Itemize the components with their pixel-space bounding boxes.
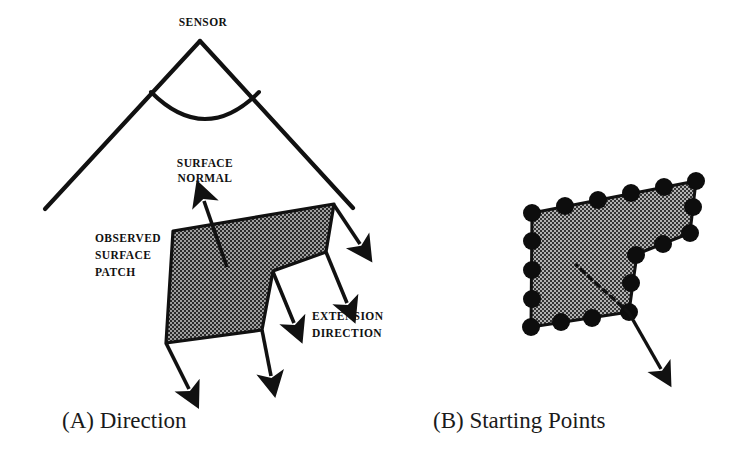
- extension-direction-label: EXTENSION: [312, 310, 384, 322]
- boundary-point: [622, 184, 640, 202]
- observed-surface-patch-label-line2: SURFACE: [95, 249, 151, 261]
- boundary-point: [552, 313, 570, 331]
- surface-normal-label-line2: NORMAL: [178, 172, 233, 184]
- panel-a-caption: (A) Direction: [62, 408, 187, 433]
- boundary-point: [523, 290, 541, 308]
- figure-root: SENSOR SURFACE NORMAL OBSERVED SURFACE P…: [0, 0, 732, 454]
- boundary-point: [681, 224, 699, 242]
- boundary-point: [687, 172, 705, 190]
- extension-direction-label-line2: DIRECTION: [312, 327, 382, 339]
- boundary-point: [556, 197, 574, 215]
- boundary-point: [684, 198, 702, 216]
- boundary-point: [654, 235, 672, 253]
- boundary-point: [523, 204, 541, 222]
- technical-diagram-svg: SENSOR SURFACE NORMAL OBSERVED SURFACE P…: [0, 0, 732, 454]
- boundary-point: [627, 246, 645, 264]
- boundary-point: [622, 274, 640, 292]
- panel-b-caption: (B) Starting Points: [433, 408, 606, 433]
- sensor-label: SENSOR: [179, 16, 228, 28]
- boundary-point: [589, 191, 607, 209]
- observed-surface-patch-label-line3: PATCH: [95, 266, 136, 278]
- boundary-point: [523, 261, 541, 279]
- boundary-point: [522, 318, 540, 336]
- boundary-point: [523, 232, 541, 250]
- boundary-point: [655, 178, 673, 196]
- observed-surface-patch-label: OBSERVED: [95, 232, 161, 244]
- surface-normal-label: SURFACE: [177, 157, 233, 169]
- boundary-point: [583, 309, 601, 327]
